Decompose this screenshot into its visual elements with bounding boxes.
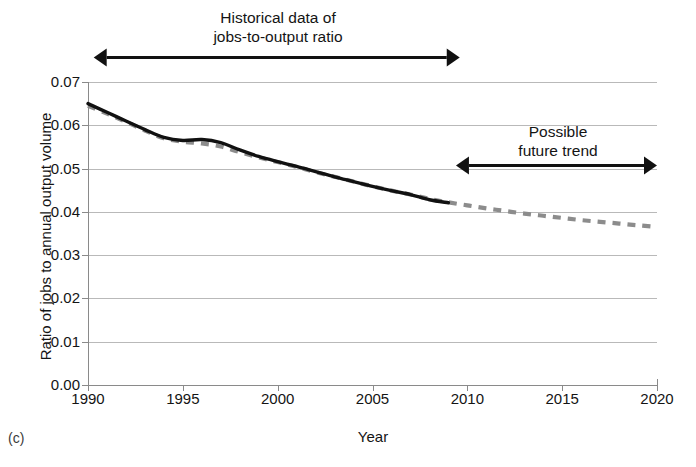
- x-axis-tick-label: 2015: [527, 391, 597, 406]
- x-axis-tick-label-group: 1990199520002005201020152020: [0, 0, 696, 467]
- panel-caption: (c): [8, 430, 24, 446]
- x-axis-title: Year: [288, 428, 458, 445]
- historical-annotation-line-1: Historical data of: [128, 8, 428, 27]
- future-annotation-label: Possible future trend: [478, 122, 638, 160]
- historical-annotation-label: Historical data of jobs-to-output ratio: [128, 8, 428, 46]
- y-axis-title: Ratio of jobs to annual output volume: [37, 77, 54, 397]
- x-axis-tick-label: 2020: [622, 391, 692, 406]
- figure-panel: 0.000.010.020.030.040.050.060.07 1990199…: [0, 0, 696, 467]
- historical-annotation-line-2: jobs-to-output ratio: [128, 27, 428, 46]
- future-annotation-line-1: Possible: [478, 122, 638, 141]
- x-axis-tick-label: 2000: [243, 391, 313, 406]
- future-annotation-line-2: future trend: [478, 141, 638, 160]
- x-axis-tick-label: 1990: [53, 391, 123, 406]
- x-axis-tick-label: 1995: [148, 391, 218, 406]
- x-axis-tick-label: 2005: [338, 391, 408, 406]
- x-axis-tick-label: 2010: [432, 391, 502, 406]
